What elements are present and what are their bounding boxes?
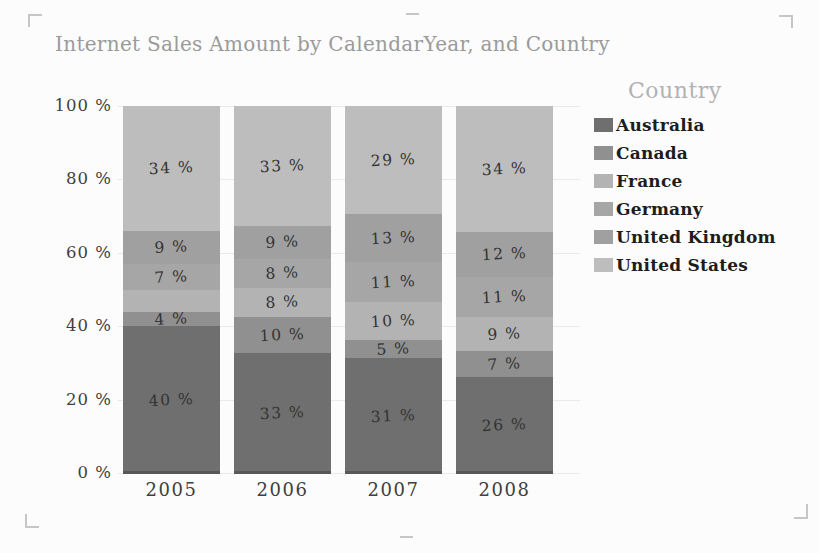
bar-segment-united-kingdom-2008: 12 % <box>456 232 553 276</box>
bar-segment-label: 9 % <box>123 236 221 259</box>
y-axis-tick-label: 60 % <box>30 243 112 263</box>
x-axis-label-2006: 2006 <box>234 479 331 500</box>
legend-item-germany: Germany <box>594 195 776 223</box>
crop-mark-bottom-right <box>794 504 808 519</box>
bar-segment-label: 12 % <box>456 243 554 266</box>
bar-segment-germany-2007: 11 % <box>345 262 442 303</box>
legend-swatch-united-states <box>594 258 613 272</box>
bar-segment-label: 10 % <box>345 309 443 332</box>
legend-item-canada: Canada <box>594 139 776 167</box>
y-axis-tick-label: 80 % <box>30 169 112 189</box>
legend-swatch-australia <box>594 118 613 132</box>
bar-segment-label: 8 % <box>234 262 332 285</box>
legend-item-label: United Kingdom <box>616 227 776 247</box>
bar-segment-germany-2008: 11 % <box>456 277 553 318</box>
legend-item-label: Canada <box>616 143 688 163</box>
crop-mark-top-right <box>779 15 793 28</box>
bar-segment-label: 40 % <box>123 388 221 411</box>
bar-segment-australia-2005: 40 % <box>123 326 220 473</box>
bar-segment-label: 9 % <box>456 322 554 345</box>
bar-segment-label: 29 % <box>345 148 443 171</box>
bar-segment-canada-2005: 4 % <box>123 312 220 327</box>
bar-segment-label: 9 % <box>234 231 332 254</box>
bar-2006: 33 %10 %8 %8 %9 %33 % <box>234 106 331 473</box>
bar-segment-label: 7 % <box>456 352 554 375</box>
bar-segment-label: 13 % <box>345 226 443 249</box>
crop-mark-top-left <box>28 14 42 27</box>
bar-segment-label: 11 % <box>345 271 443 294</box>
bar-segment-label: 31 % <box>345 404 443 427</box>
y-axis-tick-label: 0 % <box>30 463 112 483</box>
bar-2008: 26 %7 %9 %11 %12 %34 % <box>456 106 553 473</box>
bar-2007: 31 %5 %10 %11 %13 %29 % <box>345 106 442 473</box>
legend-item-united-kingdom: United Kingdom <box>594 223 776 251</box>
y-axis-tick-label: 100 % <box>30 96 112 116</box>
plot-area: 40 %4 %7 %9 %34 %33 %10 %8 %8 %9 %33 %31… <box>123 106 567 473</box>
bar-segment-france-2007: 10 % <box>345 302 442 339</box>
legend-item-australia: Australia <box>594 111 776 139</box>
bar-segment-label: 8 % <box>234 291 332 314</box>
y-axis-tick-label: 20 % <box>30 390 112 410</box>
bar-segment-united-kingdom-2005: 9 % <box>123 231 220 264</box>
bar-segment-united-states-2006: 33 % <box>234 106 331 226</box>
legend-item-united-states: United States <box>594 251 776 279</box>
bar-segment-canada-2008: 7 % <box>456 351 553 377</box>
bar-segment-united-states-2007: 29 % <box>345 106 442 214</box>
bar-segment-france-2006: 8 % <box>234 288 331 317</box>
bar-segment-germany-2005: 7 % <box>123 264 220 290</box>
x-axis: 2005200620072008 <box>123 479 567 505</box>
bar-segment-united-states-2008: 34 % <box>456 106 553 232</box>
bar-segment-france-2008: 9 % <box>456 317 553 350</box>
bar-2005: 40 %4 %7 %9 %34 % <box>123 106 220 473</box>
bar-segment-label: 34 % <box>456 158 554 181</box>
chart-title: Internet Sales Amount by CalendarYear, a… <box>55 32 610 56</box>
legend-title: Country <box>628 78 776 103</box>
bar-segment-united-states-2005: 34 % <box>123 106 220 231</box>
y-axis: 100 %80 %60 %40 %20 %0 % <box>30 106 112 473</box>
scanned-chart-page: Internet Sales Amount by CalendarYear, a… <box>0 0 819 553</box>
bar-segment-canada-2006: 10 % <box>234 317 331 353</box>
legend-item-label: Germany <box>616 199 703 219</box>
bar-segment-united-kingdom-2007: 13 % <box>345 214 442 262</box>
crop-mark-top-center <box>406 13 419 15</box>
legend: Country AustraliaCanadaFranceGermanyUnit… <box>594 78 776 279</box>
x-axis-label-2007: 2007 <box>345 479 442 500</box>
bar-segment-germany-2006: 8 % <box>234 259 331 288</box>
bar-segment-australia-2007: 31 % <box>345 358 442 473</box>
bar-segment-label: 34 % <box>123 157 221 180</box>
legend-swatch-united-kingdom <box>594 230 613 244</box>
legend-item-label: United States <box>616 255 748 275</box>
legend-item-label: France <box>616 171 682 191</box>
bar-segment-label: 10 % <box>234 323 332 346</box>
bar-segment-australia-2006: 33 % <box>234 353 331 473</box>
legend-item-label: Australia <box>616 115 705 135</box>
x-axis-label-2008: 2008 <box>456 479 553 500</box>
legend-swatch-canada <box>594 146 613 160</box>
crop-mark-bottom-left <box>25 514 39 528</box>
bar-segment-france-2005 <box>123 290 220 312</box>
legend-swatch-france <box>594 174 613 188</box>
bar-segment-label: 33 % <box>234 154 332 177</box>
bar-segment-australia-2008: 26 % <box>456 377 553 473</box>
legend-swatch-germany <box>594 202 613 216</box>
legend-items: AustraliaCanadaFranceGermanyUnited Kingd… <box>594 111 776 279</box>
bar-segment-label: 11 % <box>456 285 554 308</box>
y-axis-tick-label: 40 % <box>30 316 112 336</box>
bar-segment-label: 5 % <box>345 337 443 360</box>
bar-segment-label: 26 % <box>456 413 554 436</box>
bar-segment-canada-2007: 5 % <box>345 340 442 359</box>
x-axis-label-2005: 2005 <box>123 479 220 500</box>
crop-mark-bottom-center <box>400 536 413 538</box>
legend-item-france: France <box>594 167 776 195</box>
bar-segment-united-kingdom-2006: 9 % <box>234 226 331 259</box>
bar-segment-label: 33 % <box>234 402 332 425</box>
bar-segment-label: 7 % <box>123 265 221 288</box>
